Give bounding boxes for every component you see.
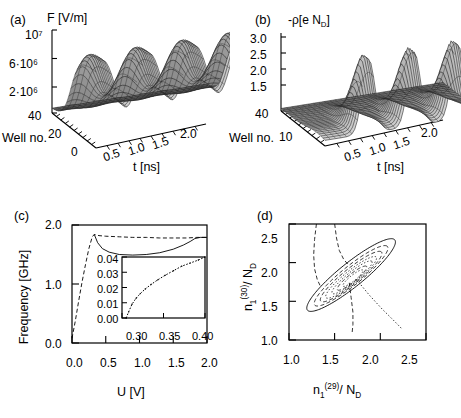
panel-c: (c) Frequency [GHz] 2.0 1.0 0.0 0.0 0.5 … xyxy=(0,200,230,418)
panel-d: (d) n1(30)/ ND 2.5 2.0 1.5 1.0 1.0 1.5 2… xyxy=(231,200,461,418)
panel-b-surface-plot xyxy=(231,0,461,200)
panel-d-phase-plot xyxy=(231,200,461,418)
panel-c-line-plot xyxy=(0,200,230,418)
panel-b: (b) -ρ[e ND] 3.0 2.5 2.0 1.5 40 10 Well … xyxy=(231,0,461,200)
panel-a-surface-plot xyxy=(0,0,230,200)
panel-a: (a) F [V/m] 10⁷ 6·10⁶ 2·10⁶ 40 20 0 Well… xyxy=(0,0,230,200)
